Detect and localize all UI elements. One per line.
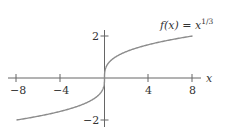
y-tick-label: −2 <box>83 114 99 127</box>
x-tick-label: 4 <box>145 84 152 97</box>
x-tick-label: −8 <box>10 84 26 97</box>
x-tick-label: −4 <box>53 84 69 97</box>
plot-canvas: −8 −4 4 8 2 −2 x f(x) = x1/3 <box>0 0 228 131</box>
function-label: f(x) = x1/3 <box>159 17 214 32</box>
x-tick-label: 8 <box>189 84 196 97</box>
y-tick-label: 2 <box>92 30 99 43</box>
x-axis-label: x <box>206 72 213 85</box>
